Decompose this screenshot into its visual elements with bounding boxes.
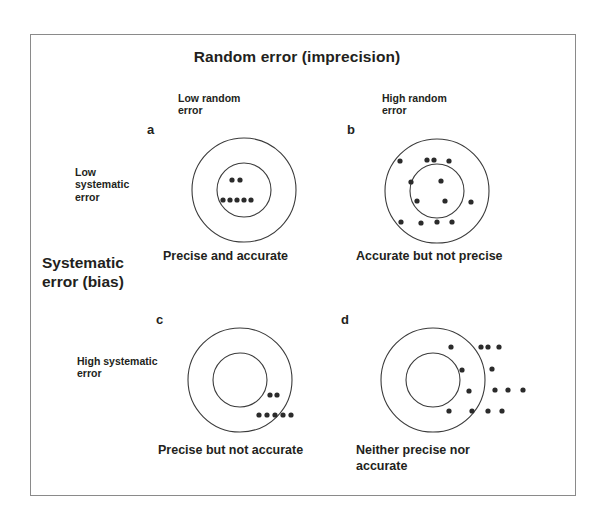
panel-caption-d: Neither precise nor accurate (356, 442, 536, 475)
accuracy-precision-figure: Random error (imprecision) Systematic er… (0, 0, 594, 518)
panel-letter-b: b (347, 122, 355, 137)
figure-title-random-error: Random error (imprecision) (0, 48, 594, 66)
panel-letter-a: a (147, 122, 154, 137)
row-header-high-systematic-error: High systematic error (77, 355, 207, 380)
column-header-high-random-error: High random error (382, 92, 502, 117)
panel-caption-a: Precise and accurate (163, 248, 343, 264)
row-header-low-systematic-error: Low systematic error (75, 166, 185, 203)
panel-letter-c: c (156, 312, 163, 327)
column-header-low-random-error: Low random error (178, 92, 298, 117)
panel-letter-d: d (341, 312, 349, 327)
panel-caption-b: Accurate but not precise (356, 248, 556, 264)
panel-caption-c: Precise but not accurate (158, 442, 358, 458)
